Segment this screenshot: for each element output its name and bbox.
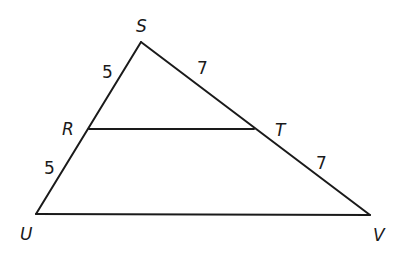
side-label-sr: 5	[102, 62, 113, 82]
side-label-ru: 5	[44, 158, 55, 178]
vertex-label-r: R	[62, 119, 74, 139]
vertex-label-u: U	[20, 224, 33, 244]
vertex-label-s: S	[136, 16, 147, 36]
vertex-label-v: V	[373, 225, 386, 245]
segment-uv	[36, 214, 370, 215]
vertex-label-t: T	[275, 120, 287, 140]
side-label-st: 7	[197, 58, 208, 78]
triangle-diagram: S R T U V 5 5 7 7	[0, 0, 411, 257]
side-label-tv: 7	[316, 153, 327, 173]
